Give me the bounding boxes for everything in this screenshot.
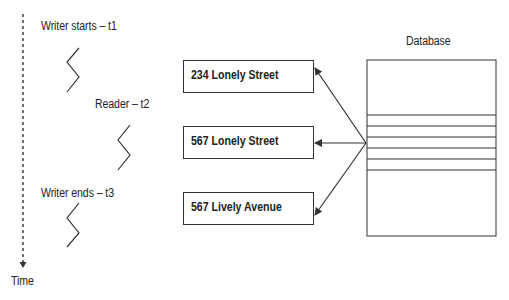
time-arrow-icon bbox=[20, 262, 27, 268]
record-label-2: 567 Lonely Street bbox=[191, 134, 278, 148]
database-label: Database bbox=[406, 34, 451, 48]
record-box-1: 234 Lonely Street bbox=[183, 60, 314, 93]
record-box-3: 567 Lively Avenue bbox=[183, 192, 314, 225]
arrow-to-record-1 bbox=[315, 68, 366, 143]
event-writer-starts: Writer starts – t1 bbox=[41, 19, 117, 33]
zigzag-writer-end-icon bbox=[67, 203, 79, 247]
record-label-1: 234 Lonely Street bbox=[191, 68, 278, 82]
diagram-canvas: Writer starts – t1 Reader – t2 Writer en… bbox=[0, 0, 509, 300]
event-writer-ends: Writer ends – t3 bbox=[41, 186, 114, 200]
database-table bbox=[367, 60, 496, 236]
record-box-2: 567 Lonely Street bbox=[183, 126, 314, 159]
arrow-to-record-3 bbox=[315, 143, 366, 215]
time-axis bbox=[20, 14, 27, 268]
time-axis-label: Time bbox=[11, 274, 34, 288]
zigzag-writer-start-icon bbox=[67, 48, 79, 92]
record-label-3: 567 Lively Avenue bbox=[191, 200, 282, 214]
event-reader: Reader – t2 bbox=[95, 97, 149, 111]
zigzag-reader-icon bbox=[118, 125, 130, 170]
